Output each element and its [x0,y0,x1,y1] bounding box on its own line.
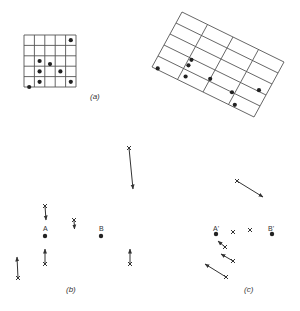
grid-line [178,25,208,80]
point-a [43,234,47,238]
grid-point [38,69,42,73]
point-label-b-prime: B' [268,225,274,232]
grid-point [156,66,160,70]
cross-mark [248,228,252,232]
grid-point [257,88,261,92]
grid-line [164,45,266,95]
grid-point [48,62,52,66]
grid-line [152,12,182,67]
grid-point [186,63,190,67]
caption-b: (b) [66,285,76,294]
displacement-arrow [129,148,133,189]
square-grid [24,35,76,87]
cross-mark [231,230,235,234]
grid-line [182,12,284,62]
grid-point [189,58,193,62]
grid-line [229,50,259,105]
grid-point [69,80,73,84]
displacement-arrow [17,257,18,278]
displacement-arrow [45,206,46,220]
point-a-prime [214,232,218,236]
grid-line [158,56,260,106]
grid-point [69,38,73,42]
caption-a: (a) [90,92,100,101]
panel-b [16,146,133,280]
grid-point [58,69,62,73]
caption-c: (c) [244,285,254,294]
grid-line [176,23,278,73]
point-b-prime [270,232,274,236]
diagram-canvas: (a) A B (b) A' B' (c) [0,0,300,311]
displacement-arrow [218,241,225,247]
grid-point [184,74,188,78]
grid-point [233,103,237,107]
displacement-arrow [205,264,226,277]
displacement-arrow [74,220,75,229]
grid-point [38,59,42,63]
grid-point [27,85,31,89]
point-b [99,234,103,238]
grid-point [230,90,234,94]
rotated-grid [152,12,284,117]
grid-line [152,67,254,117]
displacement-arrow [221,254,233,261]
point-label-b: B [99,225,104,232]
point-label-a-prime: A' [213,225,219,232]
grid-point [38,80,42,84]
displacement-arrow [237,181,263,197]
grid-line [203,37,233,92]
point-label-a: A [43,225,48,232]
grid-point [208,77,212,81]
